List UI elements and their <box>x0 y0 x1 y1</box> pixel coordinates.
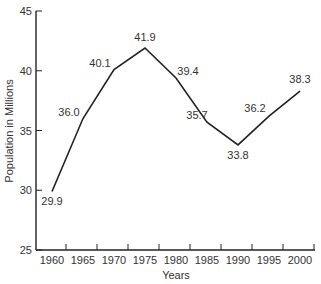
x-axis-label: Years <box>162 269 190 281</box>
data-label: 41.9 <box>134 31 155 43</box>
x-tick-label: 2000 <box>288 254 312 266</box>
y-axis-label: Population in Millions <box>3 79 15 183</box>
x-tick-label: 1995 <box>257 254 281 266</box>
data-labels: 29.936.040.141.939.435.733.836.238.3 <box>41 31 310 207</box>
x-tick-label: 1975 <box>133 254 157 266</box>
data-label: 39.4 <box>177 65 198 77</box>
y-tick-label: 30 <box>20 184 32 196</box>
chart-canvas: 2530354045 19601965197019751980198519901… <box>0 0 321 284</box>
x-axis-ticks: 196019651970197519801985199019952000 <box>40 244 314 266</box>
y-axis-ticks: 2530354045 <box>20 5 42 256</box>
data-label: 29.9 <box>41 195 62 207</box>
y-tick-label: 45 <box>20 5 32 17</box>
population-line <box>52 48 300 191</box>
data-label: 36.2 <box>244 102 265 114</box>
data-label: 36.0 <box>58 106 79 118</box>
x-tick-label: 1970 <box>102 254 126 266</box>
x-tick-label: 1960 <box>40 254 64 266</box>
data-label: 35.7 <box>186 109 207 121</box>
data-label: 38.3 <box>289 73 310 85</box>
y-tick-label: 25 <box>20 244 32 256</box>
data-label: 33.8 <box>227 149 248 161</box>
y-tick-label: 35 <box>20 125 32 137</box>
x-tick-label: 1985 <box>195 254 219 266</box>
y-tick-label: 40 <box>20 65 32 77</box>
line-chart: 2530354045 19601965197019751980198519901… <box>0 0 321 284</box>
data-label: 40.1 <box>89 57 110 69</box>
x-tick-label: 1965 <box>71 254 95 266</box>
x-tick-label: 1990 <box>226 254 250 266</box>
x-tick-label: 1980 <box>164 254 188 266</box>
